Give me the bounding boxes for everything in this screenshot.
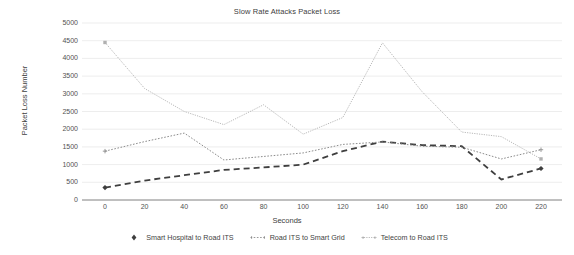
legend-item[interactable]: Road ITS to Smart Grid bbox=[250, 233, 345, 242]
plot-area bbox=[0, 0, 574, 255]
legend-marker-icon bbox=[361, 233, 377, 242]
legend-label: Road ITS to Smart Grid bbox=[270, 233, 345, 242]
legend-item[interactable]: Smart Hospital to Road ITS bbox=[126, 233, 233, 242]
data-point-marker bbox=[538, 166, 543, 171]
gridlines bbox=[82, 23, 562, 182]
chart-legend: Smart Hospital to Road ITSRoad ITS to Sm… bbox=[0, 233, 574, 242]
legend-marker-icon bbox=[126, 233, 142, 242]
legend-marker-icon bbox=[250, 233, 266, 242]
series-line bbox=[105, 42, 541, 158]
data-point-marker bbox=[102, 185, 107, 190]
data-series-layer bbox=[102, 41, 543, 190]
chart-container: Slow Rate Attacks Packet Loss Packet Los… bbox=[0, 0, 574, 255]
data-point-marker bbox=[539, 148, 543, 152]
data-point-marker bbox=[103, 41, 106, 44]
data-point-marker bbox=[103, 149, 107, 153]
legend-item[interactable]: Telecom to Road ITS bbox=[361, 233, 448, 242]
series-1 bbox=[102, 142, 543, 191]
data-point-marker bbox=[539, 157, 542, 160]
legend-label: Smart Hospital to Road ITS bbox=[146, 233, 233, 242]
legend-label: Telecom to Road ITS bbox=[381, 233, 448, 242]
